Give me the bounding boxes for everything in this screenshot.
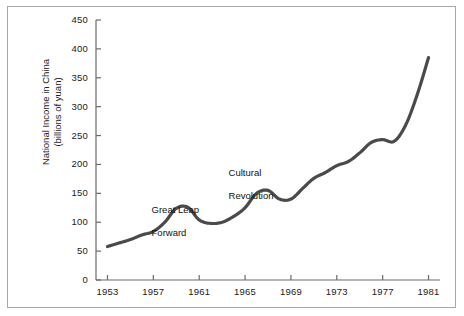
y-axis-label-line1: National Income in China <box>40 59 51 165</box>
y-tick-label: 300 <box>58 101 88 112</box>
annotation-cultural-revolution: Cultural Revolution <box>218 155 273 213</box>
x-tick-label: 1969 <box>271 286 311 297</box>
y-tick-label: 250 <box>58 130 88 141</box>
y-tick-label: 450 <box>58 14 88 25</box>
y-tick-label: 350 <box>58 72 88 83</box>
y-axis-ticks <box>96 20 101 280</box>
y-tick-label: 400 <box>58 43 88 54</box>
x-tick-label: 1957 <box>133 286 173 297</box>
y-tick-label: 0 <box>58 274 88 285</box>
x-tick-label: 1953 <box>87 286 127 297</box>
annotation-cultural-revolution-line1: Cultural <box>229 167 262 178</box>
x-tick-label: 1981 <box>409 286 449 297</box>
annotation-great-leap-forward: Great Leap Forward <box>141 192 199 250</box>
annotation-cultural-revolution-line2: Revolution <box>229 190 274 201</box>
y-tick-label: 200 <box>58 158 88 169</box>
x-tick-label: 1965 <box>225 286 265 297</box>
x-tick-label: 1973 <box>317 286 357 297</box>
annotation-great-leap-forward-line1: Great Leap <box>152 204 200 215</box>
annotation-great-leap-forward-line2: Forward <box>152 227 187 238</box>
x-tick-label: 1961 <box>179 286 219 297</box>
chart-figure: National Income in China (billions of yu… <box>0 0 464 316</box>
y-tick-label: 100 <box>58 216 88 227</box>
y-tick-label: 150 <box>58 187 88 198</box>
x-tick-label: 1977 <box>363 286 403 297</box>
x-axis-ticks <box>107 275 428 280</box>
y-tick-label: 50 <box>58 245 88 256</box>
